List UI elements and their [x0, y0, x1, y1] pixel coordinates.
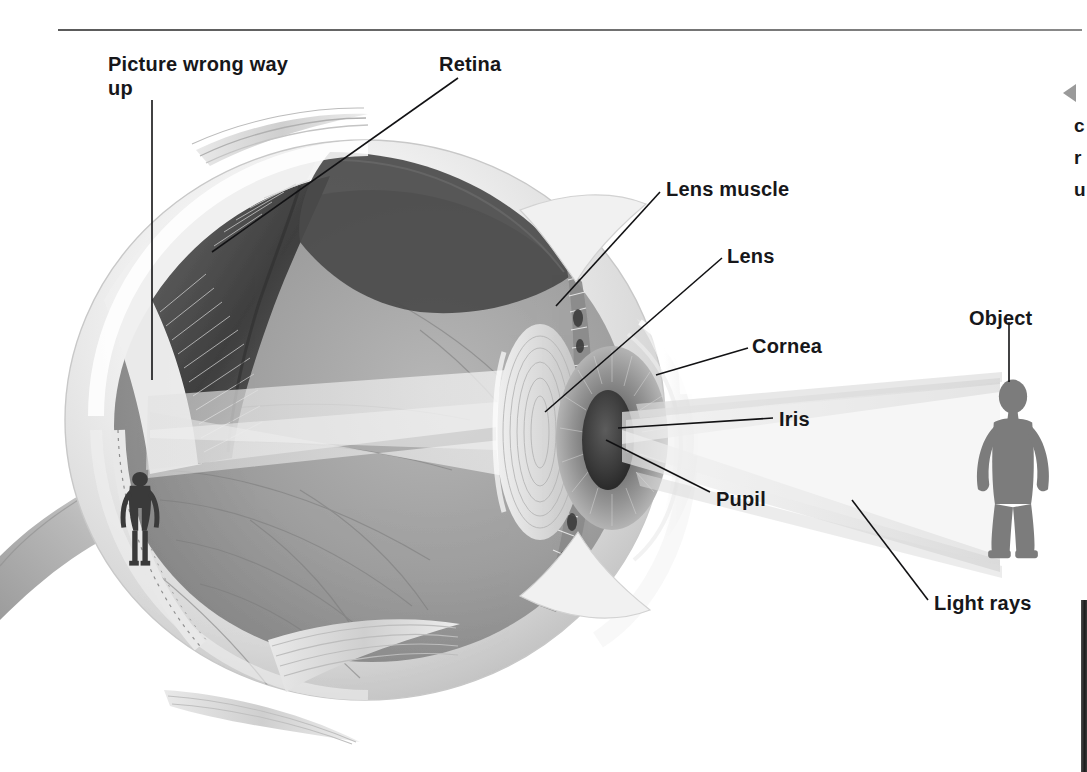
diagram-page: Picture wrong way up Retina Lens muscle …	[0, 0, 1087, 772]
label-lens-muscle: Lens muscle	[666, 178, 789, 202]
label-lens: Lens	[727, 245, 774, 269]
left-triangle-icon	[1063, 84, 1076, 102]
side-note-line-3: u	[1074, 174, 1087, 206]
label-object: Object	[969, 307, 1032, 331]
right-edge-bar	[1081, 600, 1087, 772]
label-light-rays: Light rays	[934, 592, 1032, 616]
side-note-line-1: c	[1074, 110, 1087, 142]
label-picture-wrong-way-up: Picture wrong way up	[108, 53, 298, 100]
label-iris: Iris	[779, 408, 810, 432]
label-cornea: Cornea	[752, 335, 822, 359]
eye-illustration	[0, 0, 1087, 772]
label-pupil: Pupil	[716, 488, 766, 512]
side-note-line-2: r	[1074, 142, 1087, 174]
label-retina: Retina	[439, 53, 501, 77]
